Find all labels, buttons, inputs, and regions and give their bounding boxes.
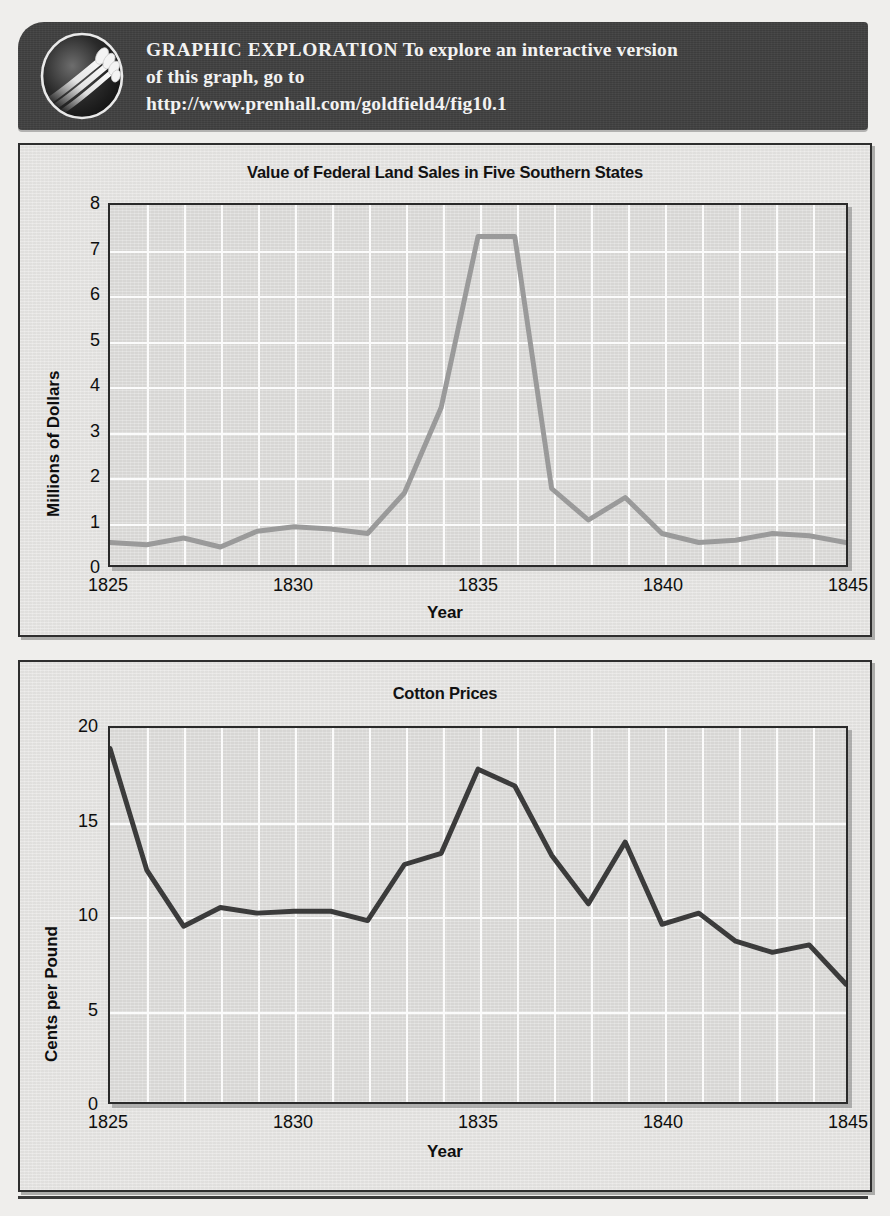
y-axis-tick-label: 2 bbox=[90, 466, 100, 487]
y-axis-tick-label: 15 bbox=[78, 810, 98, 831]
banner-line-1-rest: To explore an interactive version bbox=[398, 39, 678, 60]
figure-page: GRAPHIC EXPLORATION To explore an intera… bbox=[0, 0, 890, 1216]
y-axis-label-2: Cents per Pound bbox=[42, 926, 62, 1062]
x-axis-label-2: Year bbox=[20, 1142, 870, 1162]
y-axis-label-1: Millions of Dollars bbox=[44, 371, 64, 517]
y-axis-ticks-2: 05101520 bbox=[64, 726, 98, 1104]
x-axis-label-1: Year bbox=[20, 603, 870, 623]
x-axis-tick-label: 1835 bbox=[458, 1112, 498, 1133]
y-axis-tick-label: 5 bbox=[88, 999, 98, 1020]
bottom-rule bbox=[18, 1196, 868, 1199]
y-axis-tick-label: 5 bbox=[90, 329, 100, 350]
x-axis-tick-label: 1830 bbox=[273, 1112, 313, 1133]
graphic-exploration-label: GRAPHIC EXPLORATION bbox=[146, 39, 398, 60]
y-axis-ticks-1: 012345678 bbox=[66, 203, 100, 567]
plot-frame-2 bbox=[108, 726, 848, 1104]
y-axis-tick-label: 6 bbox=[90, 284, 100, 305]
plot-frame-1 bbox=[108, 203, 848, 567]
graphic-exploration-banner: GRAPHIC EXPLORATION To explore an intera… bbox=[18, 22, 868, 130]
y-axis-tick-label: 7 bbox=[90, 238, 100, 259]
plot-area-cotton-prices bbox=[108, 726, 848, 1104]
x-axis-tick-label: 1835 bbox=[458, 575, 498, 596]
y-axis-tick-label: 1 bbox=[90, 511, 100, 532]
globe-hand-icon bbox=[36, 30, 130, 122]
x-axis-tick-label: 1840 bbox=[643, 575, 683, 596]
y-axis-tick-label: 8 bbox=[90, 193, 100, 214]
y-axis-tick-label: 20 bbox=[78, 716, 98, 737]
x-axis-ticks-2: 18251830183518401845 bbox=[108, 1112, 848, 1136]
data-line-cotton-prices bbox=[110, 728, 846, 1102]
x-axis-tick-label: 1845 bbox=[828, 575, 868, 596]
banner-line-1: GRAPHIC EXPLORATION To explore an intera… bbox=[146, 36, 858, 63]
x-axis-tick-label: 1840 bbox=[643, 1112, 683, 1133]
x-axis-ticks-1: 18251830183518401845 bbox=[108, 575, 848, 599]
banner-line-2: of this graph, go to bbox=[146, 63, 858, 90]
chart-title-federal-land-sales: Value of Federal Land Sales in Five Sout… bbox=[20, 163, 870, 182]
y-axis-tick-label: 10 bbox=[78, 905, 98, 926]
x-axis-tick-label: 1845 bbox=[828, 1112, 868, 1133]
chart-panel-cotton-prices: Cotton Prices 05101520 18251830183518401… bbox=[18, 660, 872, 1192]
x-axis-tick-label: 1825 bbox=[88, 575, 128, 596]
chart-panel-federal-land-sales: Value of Federal Land Sales in Five Sout… bbox=[18, 143, 872, 637]
chart-title-cotton-prices: Cotton Prices bbox=[20, 684, 870, 703]
data-line-federal-land-sales bbox=[110, 205, 846, 565]
banner-url[interactable]: http://www.prenhall.com/goldfield4/fig10… bbox=[146, 90, 858, 117]
x-axis-tick-label: 1830 bbox=[273, 575, 313, 596]
y-axis-tick-label: 4 bbox=[90, 375, 100, 396]
plot-area-federal-land-sales bbox=[108, 203, 848, 567]
banner-text-block: GRAPHIC EXPLORATION To explore an intera… bbox=[146, 36, 858, 117]
y-axis-tick-label: 3 bbox=[90, 420, 100, 441]
x-axis-tick-label: 1825 bbox=[88, 1112, 128, 1133]
